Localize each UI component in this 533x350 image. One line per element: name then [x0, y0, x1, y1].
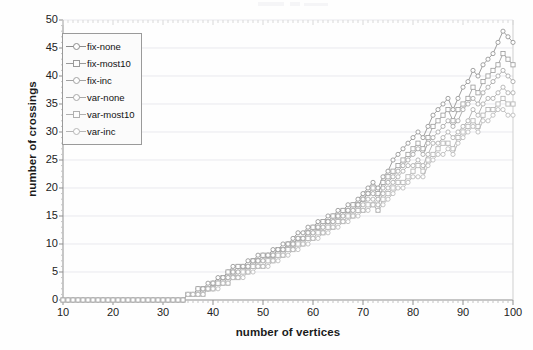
x-tick-label: 40 — [198, 306, 228, 318]
x-tick-label: 60 — [298, 306, 328, 318]
y-tick-label: 5 — [24, 266, 58, 277]
square-marker-icon — [66, 110, 86, 119]
circle-marker-icon — [66, 93, 86, 102]
legend-label: var-inc — [87, 126, 116, 137]
x-tick-label: 10 — [48, 306, 78, 318]
square-marker-icon — [66, 59, 86, 68]
y-tick-label: 10 — [24, 238, 58, 249]
x-tick-label: 80 — [398, 306, 428, 318]
chart-legend: fix-nonefix-most10fix-incvar-nonevar-mos… — [62, 33, 142, 145]
y-tick-label: 0 — [24, 294, 58, 305]
legend-item-fix-none[interactable]: fix-none — [66, 38, 141, 55]
x-tick-label: 90 — [448, 306, 478, 318]
legend-label: var-none — [87, 92, 125, 103]
x-axis-title: number of vertices — [63, 326, 513, 338]
legend-item-fix-inc[interactable]: fix-inc — [66, 72, 141, 89]
x-tick-label: 20 — [98, 306, 128, 318]
legend-label: fix-inc — [87, 75, 112, 86]
legend-item-fix-most10[interactable]: fix-most10 — [66, 55, 141, 72]
legend-item-var-most10[interactable]: var-most10 — [66, 106, 141, 123]
circle-marker-icon — [66, 127, 86, 136]
circle-marker-icon — [66, 76, 86, 85]
y-axis-title: number of crossings — [26, 59, 38, 219]
legend-label: var-most10 — [87, 109, 135, 120]
x-tick-label: 100 — [498, 306, 528, 318]
y-tick-label: 50 — [24, 14, 58, 25]
legend-label: fix-most10 — [87, 58, 131, 69]
x-tick-label: 50 — [248, 306, 278, 318]
y-tick-label: 45 — [24, 42, 58, 53]
circle-marker-icon — [66, 42, 86, 51]
legend-label: fix-none — [87, 41, 121, 52]
chart-figure: 50454035302520151050 number of crossings… — [0, 0, 533, 350]
x-tick-label: 30 — [148, 306, 178, 318]
x-tick-label: 70 — [348, 306, 378, 318]
legend-item-var-none[interactable]: var-none — [66, 89, 141, 106]
legend-item-var-inc[interactable]: var-inc — [66, 123, 141, 140]
